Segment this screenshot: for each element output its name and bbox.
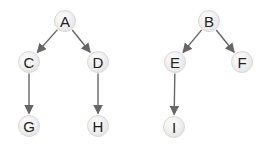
node-label: E	[170, 54, 180, 71]
node-b: B	[199, 11, 220, 32]
node-c: C	[19, 52, 40, 73]
node-d: D	[88, 52, 109, 73]
node-e: E	[165, 52, 186, 73]
tree-diagram: ACDGHBEFI	[0, 0, 264, 147]
edge-a-c	[37, 30, 57, 53]
node-label: A	[60, 13, 70, 30]
node-label: H	[93, 118, 104, 135]
node-label: C	[24, 54, 35, 71]
edge-e-i	[174, 73, 175, 114]
node-label: B	[204, 13, 214, 30]
node-h: H	[88, 116, 109, 137]
node-i: I	[164, 117, 185, 138]
node-a: A	[55, 11, 76, 32]
node-label: D	[93, 54, 104, 71]
edge-b-f	[216, 30, 234, 52]
node-label: G	[23, 118, 35, 135]
node-g: G	[19, 116, 40, 137]
node-label: F	[237, 54, 246, 71]
edge-b-e	[183, 30, 202, 53]
node-label: I	[172, 119, 176, 136]
node-f: F	[232, 52, 253, 73]
edge-a-d	[72, 30, 90, 52]
